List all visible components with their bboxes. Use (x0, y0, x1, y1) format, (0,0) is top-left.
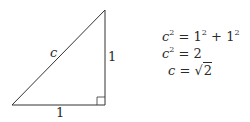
equation-1: c2 = 12 + 12 (162, 30, 240, 44)
eq3-equals: = (179, 63, 190, 78)
eq1-term2-exp: 2 (234, 28, 239, 37)
horizontal-leg-label: 1 (56, 106, 64, 119)
eq1-equals: = (179, 29, 190, 44)
eq3-lhs: c (168, 63, 175, 78)
eq1-lhs-exp: 2 (169, 28, 174, 37)
eq1-term1: 1 (194, 29, 202, 44)
vertical-leg-label: 1 (108, 50, 116, 63)
eq3-radicand: 2 (203, 62, 212, 78)
equation-2: c2 = 2 (162, 47, 202, 61)
eq1-plus: + (211, 29, 222, 44)
hypotenuse-line (12, 10, 105, 105)
eq2-rhs: 2 (194, 46, 202, 61)
right-angle-marker (97, 97, 105, 105)
hypotenuse-label: c (50, 46, 57, 59)
eq2-lhs-exp: 2 (169, 45, 174, 54)
sqrt-expression: √2 (194, 64, 212, 78)
eq2-equals: = (179, 46, 190, 61)
sqrt-icon: √ (194, 63, 202, 78)
equation-3: c = √2 (168, 64, 212, 78)
eq1-term1-exp: 2 (202, 28, 207, 37)
triangle-figure (0, 0, 250, 122)
